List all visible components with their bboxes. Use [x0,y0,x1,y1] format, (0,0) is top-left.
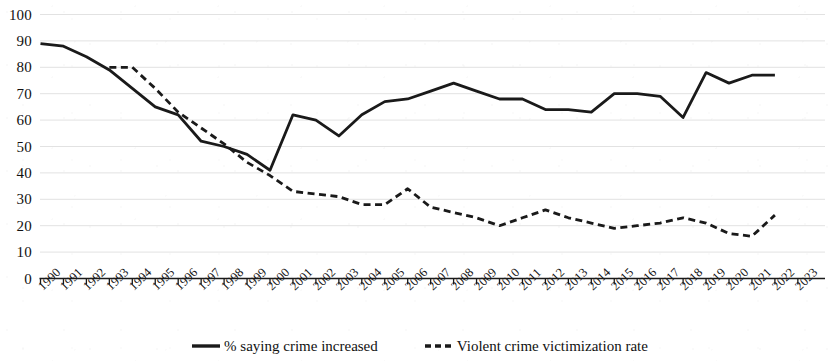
legend-swatch-solid-icon [191,340,221,352]
legend-entry-dashed: Violent crime victimization rate [424,338,648,355]
x-axis-ticks [41,279,798,285]
series-line-1 [109,67,775,236]
legend-label-victimization-rate: Violent crime victimization rate [457,338,648,355]
plot-area [0,0,839,361]
line-chart: 1009080706050403020100 19901991199219931… [0,0,839,361]
chart-legend: % saying crime increased Violent crime v… [0,332,839,360]
series-line-0 [41,44,775,171]
legend-label-crime-increased: % saying crime increased [224,338,378,355]
legend-entry-solid: % saying crime increased [191,338,378,355]
data-series-layer [41,44,775,237]
legend-swatch-dashed-icon [424,340,454,352]
gridlines [40,15,825,253]
